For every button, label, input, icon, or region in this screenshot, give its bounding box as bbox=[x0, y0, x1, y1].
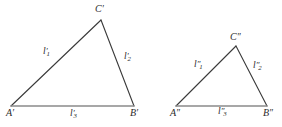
segment-c-double-prime-to-b-double-prime bbox=[236, 46, 267, 106]
vertex-label-b-prime: B′ bbox=[130, 108, 138, 119]
segment-a-prime-to-c-prime bbox=[11, 20, 101, 106]
segment-c-prime-to-b-prime bbox=[101, 20, 134, 106]
vertex-label-a-prime: A′ bbox=[6, 108, 14, 119]
vertex-letter: C bbox=[230, 31, 237, 42]
side-label-l2-double-prime: l″2 bbox=[253, 61, 262, 72]
segment-a-double-prime-to-c-double-prime bbox=[176, 46, 236, 106]
side-label-l1-prime: l′1 bbox=[43, 47, 50, 58]
prime-mark: ′ bbox=[102, 4, 104, 14]
vertex-label-b-double-prime: B″ bbox=[263, 108, 273, 119]
vertex-label-c-prime: C′ bbox=[95, 4, 104, 15]
side-label-l3-double-prime: l″3 bbox=[218, 107, 227, 118]
side-subscript: 1 bbox=[199, 63, 202, 70]
side-subscript: 3 bbox=[223, 110, 226, 117]
side-subscript: 3 bbox=[73, 112, 76, 119]
triangle-double-prime-shape bbox=[176, 46, 267, 106]
side-label-l3-prime: l′3 bbox=[70, 109, 77, 120]
vertex-letter: C bbox=[95, 3, 102, 14]
side-subscript: 1 bbox=[46, 50, 49, 57]
prime-mark: ′ bbox=[12, 108, 14, 118]
prime-mark: ′ bbox=[136, 108, 138, 118]
triangle-prime-shape bbox=[11, 20, 134, 106]
side-subscript: 2 bbox=[127, 55, 130, 62]
triangles-drawing bbox=[0, 0, 282, 127]
vertex-label-c-double-prime: C″ bbox=[230, 32, 241, 43]
double-prime-mark: ″ bbox=[269, 108, 273, 118]
double-prime-mark: ″ bbox=[237, 32, 241, 42]
side-label-l1-double-prime: l″1 bbox=[194, 60, 203, 71]
geometry-figure: A′ B′ C′ l′1 l′2 l′3 A″ B″ C″ l″1 l″2 l″… bbox=[0, 0, 282, 127]
side-subscript: 2 bbox=[258, 64, 261, 71]
vertex-label-a-double-prime: A″ bbox=[170, 108, 180, 119]
side-label-l2-prime: l′2 bbox=[124, 52, 131, 63]
double-prime-mark: ″ bbox=[176, 108, 180, 118]
